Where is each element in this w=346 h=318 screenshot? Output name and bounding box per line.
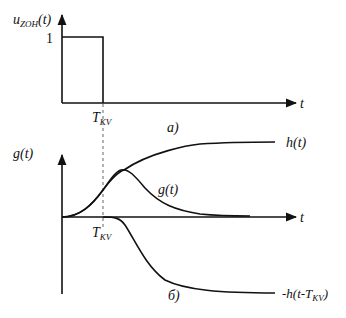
panel-b: g(t) t TKV h(t) g(t) -h(t-TKV) б) <box>13 135 328 304</box>
panel-a: uZOH(t) 1 t TKV а) <box>13 12 305 136</box>
panel-a-x-label: t <box>300 96 305 111</box>
curve-neg-h-shifted <box>103 217 275 293</box>
panel-b-caption: б) <box>168 288 180 304</box>
curve-g <box>62 170 250 217</box>
curve-h-label: h(t) <box>286 135 307 151</box>
panel-b-tkv-label: TKV <box>92 225 113 242</box>
panel-b-y-label: g(t) <box>13 146 34 162</box>
panel-a-tkv-label: TKV <box>92 110 113 127</box>
panel-b-x-label: t <box>300 210 305 225</box>
panel-a-caption: а) <box>167 120 179 136</box>
diagram-canvas: uZOH(t) 1 t TKV а) g(t) t TKV h(t) g(t) … <box>0 0 346 318</box>
panel-a-y-label: uZOH(t) <box>13 12 52 29</box>
curve-g-label: g(t) <box>158 182 179 198</box>
zoh-pulse <box>62 37 103 103</box>
curve-neg-h-shifted-label: -h(t-TKV) <box>282 286 328 303</box>
panel-a-y-tick-1: 1 <box>46 31 53 46</box>
